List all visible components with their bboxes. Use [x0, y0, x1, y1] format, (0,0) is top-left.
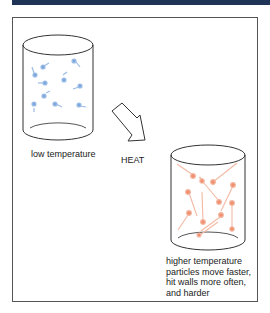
high-temperature-caption: higher temperature particles move faster…: [166, 256, 266, 298]
caption-line-1: higher temperature: [166, 256, 266, 267]
heat-label: HEAT: [121, 155, 144, 166]
caption-line-2: particles move faster,: [166, 267, 266, 278]
caption-line-4: and harder: [166, 288, 266, 299]
high-temp-cylinder: [171, 145, 245, 250]
low-temp-particles: [32, 59, 86, 112]
low-temp-cylinder: [23, 35, 93, 140]
caption-line-3: hit walls more often,: [166, 277, 266, 288]
high-temp-particles: [177, 163, 237, 237]
low-temperature-label: low temperature: [31, 149, 96, 160]
heat-arrow-icon: [112, 103, 145, 141]
